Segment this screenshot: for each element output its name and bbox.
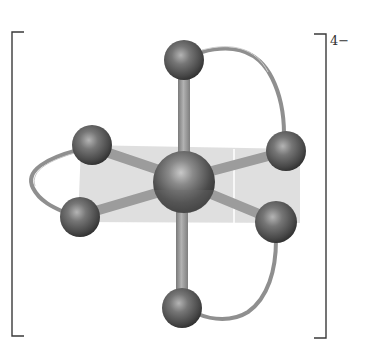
atom-top [164, 40, 204, 80]
right-bracket [314, 34, 326, 338]
atom-lower-left [60, 197, 100, 237]
atom-lower-right [255, 201, 297, 243]
right-upper-chelate-ribbon [202, 47, 284, 134]
atom-upper-left [72, 125, 112, 165]
central-metal-atom [153, 151, 215, 213]
atom-bottom [162, 288, 202, 328]
left-bracket [12, 32, 24, 336]
complex-ion-diagram: 4− [0, 0, 378, 347]
bond-bottom [176, 200, 188, 298]
bond-top [178, 72, 190, 162]
charge-label: 4− [330, 34, 349, 47]
atom-upper-right [266, 131, 306, 171]
right-lower-chelate-ribbon [198, 240, 276, 319]
